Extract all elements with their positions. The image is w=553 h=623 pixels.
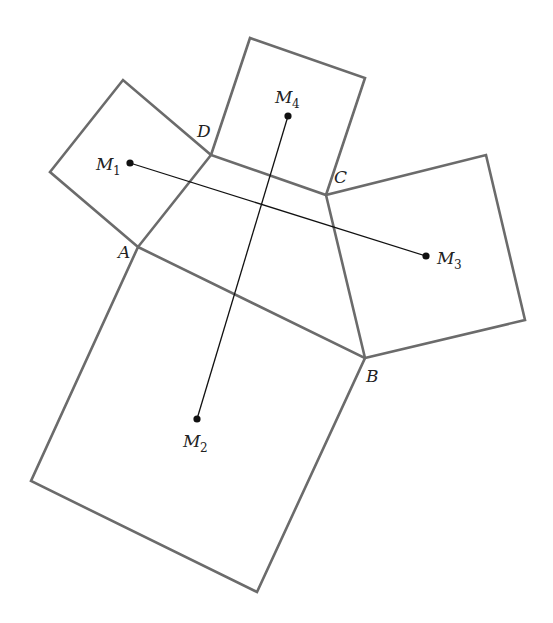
midpoint-labels: M 1 M 2 M 3 M 4 [95,87,462,455]
vertex-label-a: A [116,242,130,262]
vertex-label-b: B [365,366,379,386]
squares [31,38,525,592]
label-m3: M [436,248,455,268]
midpoint-dot-m4 [284,112,291,119]
midpoint-dot-m3 [422,252,429,259]
label-m2: M [182,431,201,451]
label-m2-subscript: 2 [200,441,208,455]
vertex-label-d: D [196,121,211,141]
label-m1: M [95,154,114,174]
segment-m2-m4 [197,116,288,419]
label-m4: M [274,87,293,107]
midpoint-dot-m1 [126,159,133,166]
label-m1-subscript: 1 [113,164,121,178]
midpoint-dots [126,112,429,422]
vertex-label-c: C [334,167,347,187]
label-m4-subscript: 4 [292,97,300,111]
midpoint-segments [130,116,426,419]
label-m3-subscript: 3 [454,258,462,272]
geometry-diagram: M 1 M 2 M 3 M 4 A B C D [0,0,553,623]
midpoint-dot-m2 [193,415,200,422]
